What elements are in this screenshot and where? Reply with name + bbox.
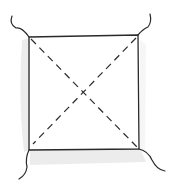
shading bbox=[20, 38, 146, 165]
diagonal-dashed-2 bbox=[33, 38, 136, 144]
corner-curl-top-left bbox=[11, 16, 29, 37]
corner-curl-bottom-left bbox=[19, 150, 29, 179]
diagonal-dashed-1 bbox=[31, 39, 137, 147]
corner-curl-top-right bbox=[138, 14, 151, 35]
